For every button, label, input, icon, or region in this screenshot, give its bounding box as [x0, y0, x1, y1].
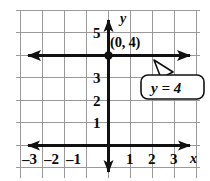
- y-tick-label-3: 3: [93, 71, 101, 86]
- x-tick-label-neg2: –2: [44, 152, 59, 167]
- y-tick-label-5: 5: [93, 26, 101, 41]
- callout-label-equation: y = 4: [151, 80, 181, 97]
- x-tick-label-neg3: –3: [22, 152, 37, 167]
- x-tick-label-neg1: –1: [66, 152, 81, 167]
- y-axis-label: y: [120, 12, 126, 26]
- x-tick-label-1: 1: [126, 152, 134, 167]
- y-tick-label-2: 2: [93, 94, 101, 109]
- point-label-0-4: (0, 4): [110, 35, 140, 50]
- x-tick-label-3: 3: [170, 152, 178, 167]
- y-tick-label-1: 1: [93, 116, 101, 131]
- x-axis-label: x: [190, 152, 197, 166]
- y-intercept-point-marker: [104, 51, 112, 59]
- callout-seam-cover: [155, 76, 173, 79]
- coordinate-graph-figure: y x 5 3 2 1 –3 –2 –1 1 2 3 (0, 4) y = 4: [0, 0, 210, 181]
- x-tick-label-2: 2: [148, 152, 156, 167]
